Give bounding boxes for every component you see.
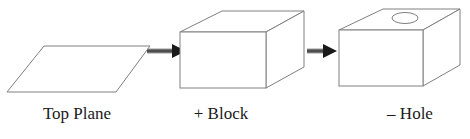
arrow-right-icon bbox=[307, 44, 337, 58]
hole-ellipse bbox=[392, 13, 418, 24]
top-plane-shape bbox=[7, 46, 150, 92]
step-label-block: + Block bbox=[194, 104, 248, 124]
step-label-hole: – Hole bbox=[387, 104, 433, 124]
block-with-hole-shape bbox=[339, 9, 460, 86]
block-shape bbox=[180, 11, 304, 88]
step-label-top-plane: Top Plane bbox=[43, 104, 111, 124]
